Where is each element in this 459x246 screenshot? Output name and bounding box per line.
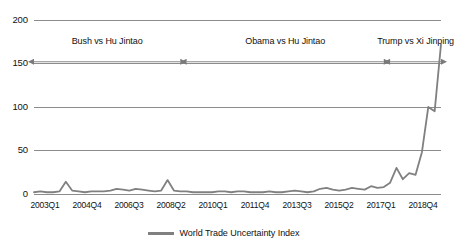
x-axis-tick-label: 2010Q1 xyxy=(190,200,236,210)
legend-label: World Trade Uncertainty Index xyxy=(180,228,300,239)
x-axis-tick-label: 2017Q1 xyxy=(358,200,404,210)
x-axis-tick-label: 2018Q4 xyxy=(400,200,446,210)
annotation-label: Trump vs Xi Jinping xyxy=(336,36,459,47)
y-axis-tick-label: 200 xyxy=(0,15,28,25)
y-axis-tick-label: 0 xyxy=(0,189,28,199)
x-axis-tick-label: 2015Q2 xyxy=(316,200,362,210)
y-axis-tick-label: 100 xyxy=(0,102,28,112)
data-series-line xyxy=(34,44,441,192)
annotation-label: Bush vs Hu Jintao xyxy=(27,36,187,47)
x-axis-tick-label: 2008Q2 xyxy=(148,200,194,210)
chart-legend: World Trade Uncertainty Index xyxy=(0,228,447,239)
y-axis-tick-label: 150 xyxy=(0,58,28,68)
y-axis-tick-label: 50 xyxy=(0,145,28,155)
x-axis-tick-label: 2003Q1 xyxy=(22,200,68,210)
legend-color-swatch xyxy=(148,232,174,235)
x-axis-tick-label: 2011Q4 xyxy=(232,200,278,210)
x-axis-tick-label: 2006Q3 xyxy=(106,200,152,210)
x-axis-tick-label: 2013Q3 xyxy=(274,200,320,210)
x-axis-tick-label: 2004Q4 xyxy=(64,200,110,210)
series-polyline xyxy=(34,44,441,192)
